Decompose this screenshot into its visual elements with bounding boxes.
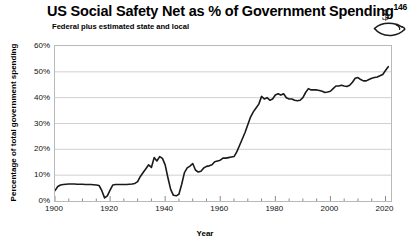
hand-holding-dollar-icon: $ xyxy=(372,5,408,39)
x-tick-label: 1940 xyxy=(144,204,184,213)
gridlines xyxy=(55,72,391,201)
x-tick-label: 2020 xyxy=(364,204,404,213)
plot-svg xyxy=(55,46,391,201)
x-axis-ticks: 1900192019401960198020002020 xyxy=(54,204,390,218)
x-axis-title: Year xyxy=(0,229,410,238)
data-line-series-0 xyxy=(55,67,388,198)
y-tick-label: 30% xyxy=(6,118,50,127)
chart-figure: US Social Safety Net as % of Government … xyxy=(0,0,410,243)
y-tick-label: 10% xyxy=(6,170,50,179)
y-tick-label: 20% xyxy=(6,144,50,153)
chart-subtitle: Federal plus estimated state and local xyxy=(52,22,189,31)
y-tick-label: 40% xyxy=(6,92,50,101)
chart-title: US Social Safety Net as % of Government … xyxy=(47,3,387,19)
hand-thumb-stroke xyxy=(402,27,405,30)
x-tick-label: 1980 xyxy=(254,204,294,213)
plot-area xyxy=(54,45,392,202)
x-tick-label: 1920 xyxy=(89,204,129,213)
x-tick-label: 1960 xyxy=(199,204,239,213)
chart-title-text: US Social Safety Net as % of Government … xyxy=(47,3,394,19)
x-tick-label: 2000 xyxy=(309,204,349,213)
y-axis-ticks: 0%10%20%30%40%50%60% xyxy=(0,45,50,200)
y-tick-label: 60% xyxy=(6,41,50,50)
x-tick-label: 1900 xyxy=(34,204,74,213)
y-tick-label: 50% xyxy=(6,66,50,75)
dollar-glyph: $ xyxy=(382,7,390,23)
